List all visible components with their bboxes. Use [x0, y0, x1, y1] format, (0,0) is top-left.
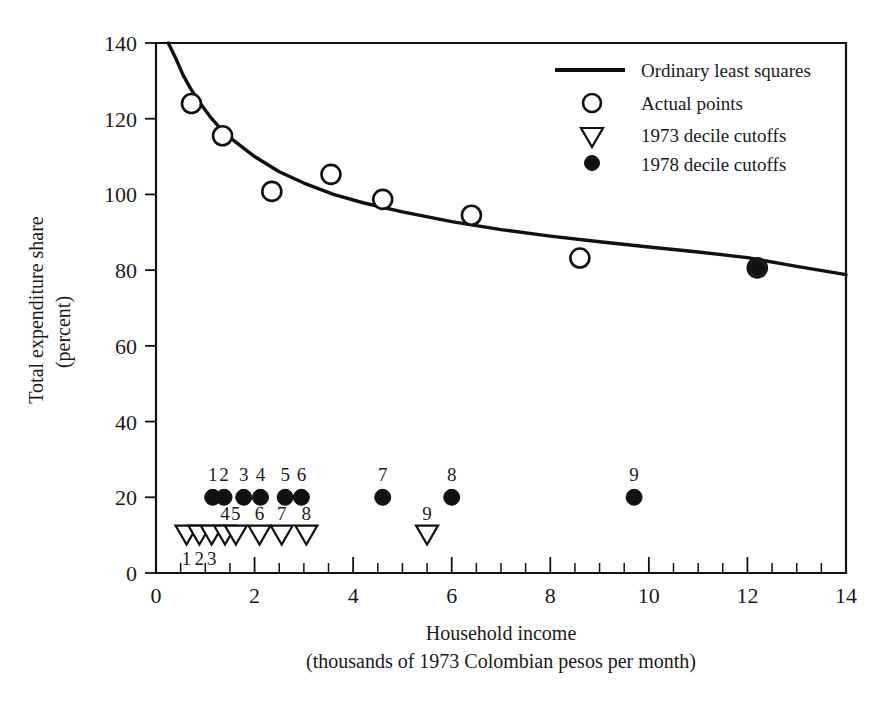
decile-1978-label: 4 — [256, 464, 266, 485]
decile-1978-marker — [293, 489, 309, 505]
x-axis-title: Household income — [426, 622, 577, 644]
y-axis-tick-labels: 020406080100120140 — [104, 31, 137, 586]
decile-1978-label: 2 — [219, 464, 229, 485]
decile-1973-label: 5 — [231, 503, 241, 524]
decile-1973-label: 9 — [422, 503, 432, 524]
legend-label-actual-points: Actual points — [641, 93, 743, 114]
legend-marker-filled-circle — [585, 156, 600, 171]
x-tick-label: 10 — [638, 583, 660, 608]
decile-1973-label: 1 — [182, 548, 192, 569]
decile-1978-label: 9 — [629, 464, 639, 485]
legend-marker-triangle-down-icon — [581, 128, 603, 147]
x-tick-label: 4 — [348, 583, 359, 608]
decile-1973-label: 6 — [255, 503, 265, 524]
decile-1973-label: 8 — [302, 503, 312, 524]
x-tick-label: 2 — [249, 583, 260, 608]
decile-1978-marker — [252, 489, 268, 505]
x-axis-minor-ticks — [181, 563, 822, 573]
actual-point-marker — [373, 190, 392, 209]
decile-1973-triangle-down-icon — [295, 526, 317, 545]
legend-label-ols: Ordinary least squares — [641, 60, 811, 81]
decile-1973-label: 7 — [277, 503, 287, 524]
decile-1973-label: 2 — [195, 548, 205, 569]
legend-marker-open-circle — [583, 94, 601, 112]
x-axis-subtitle: (thousands of 1973 Colombian pesos per m… — [306, 650, 696, 673]
y-axis-ticks — [145, 43, 156, 573]
x-tick-label: 12 — [736, 583, 758, 608]
decile-1978-marker — [236, 489, 252, 505]
legend-label-1973-cutoffs: 1973 decile cutoffs — [641, 125, 786, 146]
decile-1978-marker — [277, 489, 293, 505]
expenditure-share-chart: 020406080100120140 02468101214 123456789… — [0, 0, 882, 703]
decile-1973-label: 4 — [220, 503, 230, 524]
y-tick-label: 120 — [104, 107, 137, 132]
decile-1978-label: 5 — [280, 464, 290, 485]
actual-point-marker — [213, 126, 232, 145]
x-tick-label: 8 — [545, 583, 556, 608]
y-tick-label: 0 — [126, 561, 137, 586]
x-axis-tick-labels: 02468101214 — [151, 583, 858, 608]
y-tick-label: 40 — [115, 410, 137, 435]
actual-point-marker — [462, 206, 481, 225]
decile-1973-triangle-down-icon — [416, 526, 438, 545]
decile-1978-marker — [749, 260, 765, 276]
y-tick-label: 60 — [115, 334, 137, 359]
x-tick-label: 6 — [446, 583, 457, 608]
figure-root: 020406080100120140 02468101214 123456789… — [0, 0, 882, 703]
decile-cutoffs-1973-series: 123456789 — [176, 503, 439, 569]
decile-cutoffs-1978-series: 123456789 — [205, 260, 766, 505]
legend-label-1978-cutoffs: 1978 decile cutoffs — [641, 154, 786, 175]
decile-1978-label: 3 — [239, 464, 249, 485]
decile-1978-label: 1 — [208, 464, 218, 485]
y-tick-label: 20 — [115, 485, 137, 510]
y-axis-title: Total expenditure share — [25, 216, 48, 404]
decile-1978-label: 7 — [378, 464, 388, 485]
y-tick-label: 140 — [104, 31, 137, 56]
decile-1973-triangle-down-icon — [271, 526, 293, 545]
decile-1973-triangle-down-icon — [249, 526, 271, 545]
decile-1978-label: 8 — [447, 464, 457, 485]
decile-1978-marker — [216, 489, 232, 505]
decile-1978-marker — [626, 489, 642, 505]
actual-point-marker — [262, 182, 281, 201]
x-tick-label: 0 — [151, 583, 162, 608]
y-tick-label: 80 — [115, 258, 137, 283]
actual-point-marker — [182, 94, 201, 113]
y-tick-label: 100 — [104, 182, 137, 207]
actual-point-marker — [570, 249, 589, 268]
decile-1973-label: 3 — [207, 548, 217, 569]
decile-1978-label: 6 — [297, 464, 307, 485]
decile-1978-marker — [444, 489, 460, 505]
x-tick-label: 14 — [835, 583, 857, 608]
legend: Ordinary least squares Actual points 197… — [555, 60, 811, 175]
actual-point-marker — [321, 165, 340, 184]
y-axis-subtitle: (percent) — [52, 296, 75, 368]
decile-1978-marker — [375, 489, 391, 505]
